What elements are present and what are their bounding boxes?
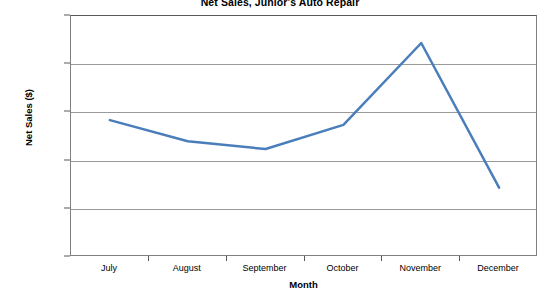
x-tick-mark <box>148 256 149 261</box>
x-tick-mark <box>304 256 305 261</box>
x-tick-label: November <box>399 263 441 273</box>
x-tick-label: September <box>243 263 287 273</box>
plot-area <box>70 15 537 256</box>
y-axis-title: Net Sales ($) <box>23 68 34 168</box>
series-net-sales <box>71 16 538 257</box>
x-tick-mark <box>381 256 382 261</box>
series-line-net-sales <box>110 43 499 188</box>
x-tick-label: July <box>101 263 117 273</box>
x-tick-mark <box>226 256 227 261</box>
chart-title: Net Sales, Junior's Auto Repair <box>0 0 560 8</box>
x-tick-mark <box>459 256 460 261</box>
x-tick-label: October <box>326 263 358 273</box>
x-axis-title: Month <box>70 279 537 290</box>
x-tick-label: December <box>477 263 519 273</box>
line-chart: Net Sales, Junior's Auto Repair Net Sale… <box>0 0 560 297</box>
x-tick-label: August <box>173 263 201 273</box>
